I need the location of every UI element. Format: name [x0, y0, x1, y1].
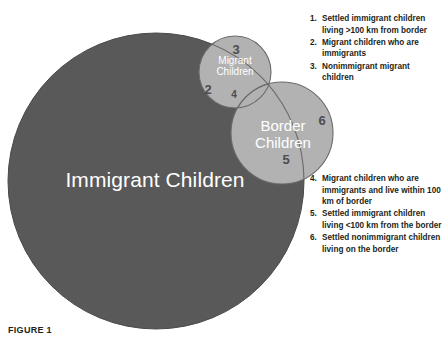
legend-item: 2. Migrant children who are immigrants: [306, 37, 442, 60]
venn-diagram: Immigrant Children Migrant Children Bord…: [0, 0, 310, 325]
legend-item: 1. Settled immigrant children living >10…: [306, 13, 442, 36]
figure-container: Immigrant Children Migrant Children Bord…: [0, 0, 446, 343]
legend-item-text: Migrant children who are immigrants: [322, 37, 442, 60]
legend-item-number: 3.: [306, 61, 322, 73]
legend-item-number: 2.: [306, 37, 322, 49]
legend-item: 5. Settled immigrant children living <10…: [306, 208, 442, 231]
legend-bottom-block: 4. Migrant children who are immigrants a…: [306, 173, 442, 256]
legend-item: 3. Nonimmigrant migrant children: [306, 61, 442, 84]
legend-item-number: 1.: [306, 13, 322, 25]
legend-item-number: 4.: [306, 173, 322, 185]
legend-top-block: 1. Settled immigrant children living >10…: [306, 13, 442, 84]
legend-item-number: 5.: [306, 208, 322, 220]
legend-item: 4. Migrant children who are immigrants a…: [306, 173, 442, 208]
legend-item-text: Settled nonimmigrant children living on …: [322, 232, 442, 255]
legend-item-number: 6.: [306, 232, 322, 244]
legend-item-text: Settled immigrant children living <100 k…: [322, 208, 442, 231]
legend-item-text: Nonimmigrant migrant children: [322, 61, 442, 84]
legend-item-text: Migrant children who are immigrants and …: [322, 173, 442, 208]
figure-caption: FIGURE 1: [8, 325, 52, 335]
legend-item: 6. Settled nonimmigrant children living …: [306, 232, 442, 255]
legend-item-text: Settled immigrant children living >100 k…: [322, 13, 442, 36]
